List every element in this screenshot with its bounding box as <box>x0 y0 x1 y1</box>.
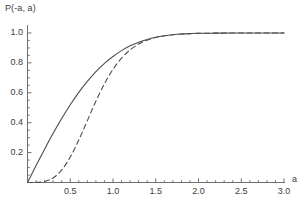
solid-curve <box>28 33 285 183</box>
x-axis-ticks <box>28 179 285 183</box>
x-tick-label: 1.0 <box>99 186 127 196</box>
dashed-curve <box>28 33 285 183</box>
y-axis-ticks <box>28 33 32 183</box>
x-tick-label: 2.0 <box>185 186 213 196</box>
y-tick-label: 1.0 <box>0 27 23 37</box>
y-tick-label: 0.8 <box>0 57 23 67</box>
y-tick-label: 0.4 <box>0 117 23 127</box>
x-tick-label: 0.5 <box>56 186 84 196</box>
x-tick-label: 1.5 <box>142 186 170 196</box>
y-tick-label: 0.6 <box>0 87 23 97</box>
plot-area <box>0 0 306 206</box>
x-tick-label: 3.0 <box>270 186 298 196</box>
x-axis-label: a <box>292 174 297 184</box>
axes <box>27 25 285 183</box>
data-series-group <box>28 33 285 183</box>
chart-container: P(-a, a) a 0.51.01.52.02.53.00.20.40.60.… <box>0 0 306 206</box>
x-tick-label: 2.5 <box>227 186 255 196</box>
y-axis-label: P(-a, a) <box>5 3 36 13</box>
y-tick-label: 0.2 <box>0 147 23 157</box>
